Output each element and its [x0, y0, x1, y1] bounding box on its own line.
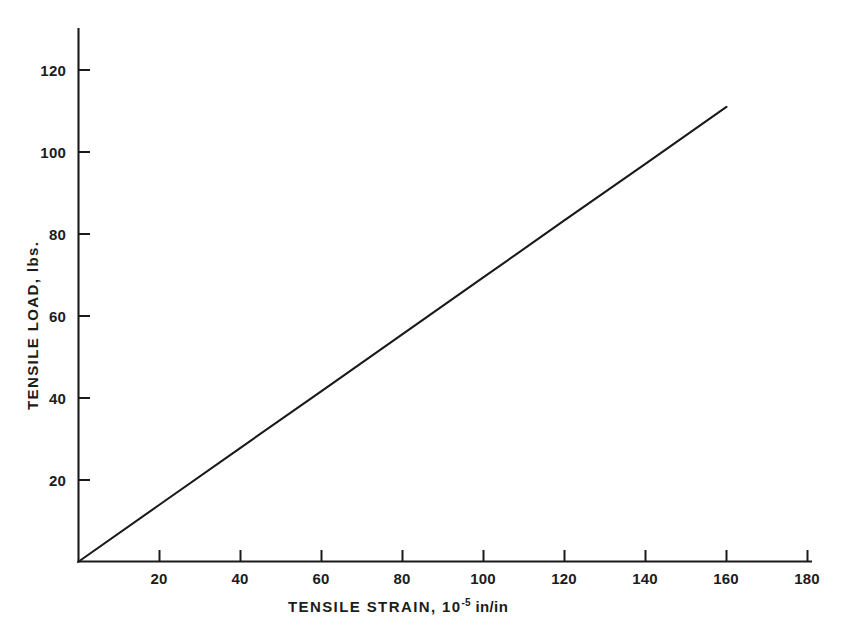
x-axis-title: TENSILE STRAIN, 10-5 in/in — [288, 597, 508, 615]
x-axis-title-exponent: -5 — [462, 597, 471, 608]
x-tick-label-140: 140 — [632, 570, 658, 587]
x-tick-label-180: 180 — [794, 570, 820, 587]
y-tick-label-20: 20 — [26, 472, 66, 489]
x-tick-label-120: 120 — [551, 570, 577, 587]
x-tick-label-40: 40 — [231, 570, 248, 587]
x-axis-title-suffix: in/in — [471, 598, 508, 615]
x-tick-label-60: 60 — [312, 570, 329, 587]
x-tick-label-80: 80 — [393, 570, 410, 587]
x-axis-title-prefix: TENSILE STRAIN, 10 — [288, 598, 462, 615]
y-tick-label-120: 120 — [26, 62, 66, 79]
x-tick-label-160: 160 — [713, 570, 739, 587]
tensile-load-strain-chart: 120 100 80 60 40 20 20 40 60 80 100 120 … — [0, 0, 843, 643]
x-tick-label-20: 20 — [150, 570, 167, 587]
y-axis-ticks — [79, 70, 90, 480]
x-tick-label-100: 100 — [470, 570, 496, 587]
y-tick-label-100: 100 — [26, 144, 66, 161]
data-series-line — [78, 107, 726, 562]
chart-canvas — [0, 0, 843, 643]
x-axis-ticks — [160, 550, 808, 561]
y-axis-title: TENSILE LOAD, lbs. — [24, 241, 41, 410]
